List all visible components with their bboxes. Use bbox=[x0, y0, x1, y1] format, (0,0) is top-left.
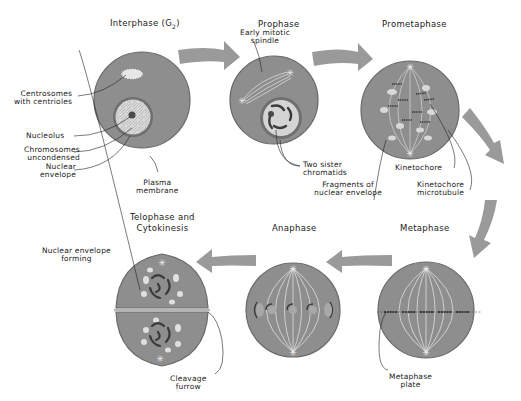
title-telophase-line1: Telophase and bbox=[130, 212, 195, 223]
centrosome-left: ✳ bbox=[238, 96, 246, 106]
svg-text:✳: ✳ bbox=[156, 354, 164, 364]
label-nucleolus: Nucleolus bbox=[26, 132, 64, 140]
svg-text:✳: ✳ bbox=[158, 258, 166, 268]
prophase-cell: ✳ ✳ bbox=[230, 56, 318, 144]
anaphase-cell: ✳ ✳ bbox=[246, 263, 340, 358]
title-telophase-line2: Cytokinesis bbox=[130, 223, 195, 234]
label-early-mitotic-spindle: Early mitoticspindle bbox=[240, 29, 290, 45]
arrow-prometaphase-to-metaphase-top bbox=[462, 108, 504, 164]
svg-text:✳: ✳ bbox=[406, 62, 414, 72]
telophase-cell: ✳ ✳ bbox=[114, 254, 210, 366]
centrosome-right: ✳ bbox=[286, 68, 294, 78]
mitosis-diagram: ✳ ✳ ✳ bbox=[0, 0, 521, 401]
svg-text:✳: ✳ bbox=[289, 264, 297, 274]
title-anaphase: Anaphase bbox=[272, 223, 316, 233]
label-fragments-nuclear-envelope: Fragments ofnuclear envelope bbox=[314, 181, 382, 197]
label-cleavage-furrow: Cleavagefurrow bbox=[170, 375, 207, 391]
label-centrosomes: Centrosomeswith centrioles bbox=[14, 90, 72, 106]
prometaphase-cell: ✳ ✳ bbox=[361, 61, 459, 159]
label-chromosomes-uncondensed: Chromosomesuncondensed bbox=[24, 146, 80, 162]
svg-text:✳: ✳ bbox=[289, 348, 297, 358]
label-nuclear-envelope: Nuclearenvelope bbox=[40, 163, 76, 179]
interphase-cell bbox=[94, 52, 190, 148]
svg-text:✳: ✳ bbox=[422, 264, 430, 274]
label-nuclear-envelope-forming: Nuclear envelopeforming bbox=[42, 247, 111, 263]
arrow-interphase-to-prophase bbox=[178, 41, 240, 70]
label-kinetochore: Kinetochore bbox=[395, 164, 442, 172]
label-kinetochore-microtubule: Kinetochoremicrotubule bbox=[417, 181, 464, 197]
svg-text:✳: ✳ bbox=[406, 149, 414, 159]
title-telophase: Telophase and Cytokinesis bbox=[130, 212, 195, 234]
arrow-prometaphase-to-metaphase bbox=[469, 200, 497, 258]
arrow-prophase-to-prometaphase bbox=[312, 43, 373, 71]
title-metaphase: Metaphase bbox=[400, 223, 449, 233]
metaphase-cell: ✳ ✳ bbox=[377, 262, 482, 358]
diagram-graphics: ✳ ✳ ✳ bbox=[0, 0, 521, 401]
label-plasma-membrane: Plasmamembrane bbox=[136, 179, 179, 195]
arrow-metaphase-to-anaphase bbox=[326, 250, 392, 273]
centrosome bbox=[122, 70, 142, 79]
title-interphase: Interphase (G2) bbox=[110, 18, 180, 30]
arrow-anaphase-to-telophase bbox=[196, 249, 256, 273]
title-prometaphase: Prometaphase bbox=[382, 19, 447, 29]
svg-text:✳: ✳ bbox=[422, 348, 430, 358]
stage-arrows bbox=[178, 41, 504, 273]
label-two-sister-chromatids: Two sisterchromatids bbox=[303, 161, 347, 177]
label-metaphase-plate: Metaphaseplate bbox=[389, 373, 432, 389]
